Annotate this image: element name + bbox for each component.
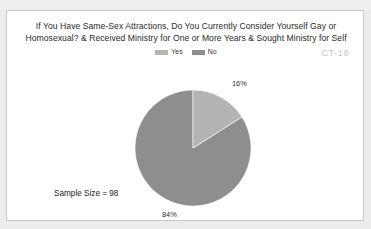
pie-chart-area: 16% 84% Sample Size = 98 <box>7 11 364 221</box>
page-background-strip <box>0 0 371 9</box>
slice-label-yes: 16% <box>232 79 247 88</box>
chart-screenshot-root: If You Have Same-Sex Attractions, Do You… <box>0 0 371 229</box>
pie-chart <box>133 88 253 208</box>
sample-size-label: Sample Size = 98 <box>54 189 118 198</box>
slice-label-no: 84% <box>162 210 177 219</box>
chart-card: If You Have Same-Sex Attractions, Do You… <box>6 10 364 221</box>
